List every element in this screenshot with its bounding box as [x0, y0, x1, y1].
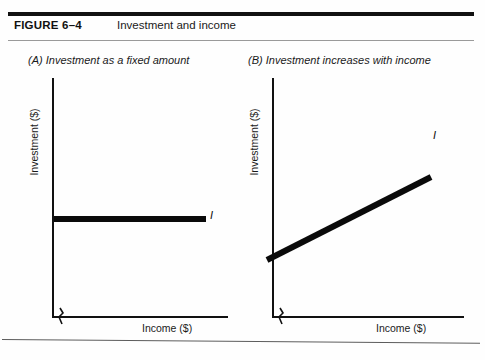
panel-a-x-axis	[52, 316, 228, 318]
panel-a-plot-area: I Investment ($) Income ($)	[24, 74, 239, 335]
panel-a-series-line-i	[54, 216, 206, 222]
figure-title: Investment and income	[117, 19, 236, 31]
footer-rule	[2, 339, 480, 344]
panel-b-x-axis	[272, 316, 464, 318]
header-bottom-rule	[8, 40, 474, 41]
figure-number-label: FIGURE 6–4	[14, 19, 82, 31]
panel-b-plot-area: I Investment ($) Income ($)	[244, 74, 476, 335]
figure-page: FIGURE 6–4 Investment and income (A) Inv…	[0, 0, 485, 360]
panel-a-y-axis-label: Investment ($)	[28, 72, 40, 212]
panel-b-x-axis-label: Income ($)	[376, 322, 426, 334]
panel-a-y-axis	[52, 78, 54, 318]
chart-panel-a: (A) Investment as a fixed amount I Inves…	[24, 50, 239, 335]
panel-b-series-line-i	[264, 144, 464, 274]
panel-b-y-axis-label: Investment ($)	[248, 72, 260, 212]
panel-b-axis-break-icon	[276, 307, 288, 325]
panel-b-series-label-i: I	[433, 130, 436, 141]
figure-header: FIGURE 6–4 Investment and income	[14, 19, 474, 37]
header-top-rule	[8, 12, 474, 16]
panel-a-title: (A) Investment as a fixed amount	[28, 54, 189, 66]
panel-b-title: (B) Investment increases with income	[248, 54, 431, 66]
panel-a-axis-break-icon	[56, 307, 68, 325]
panel-a-series-label-i: I	[210, 210, 213, 221]
panel-a-x-axis-label: Income ($)	[142, 322, 192, 334]
chart-panel-b: (B) Investment increases with income I I…	[244, 50, 476, 335]
